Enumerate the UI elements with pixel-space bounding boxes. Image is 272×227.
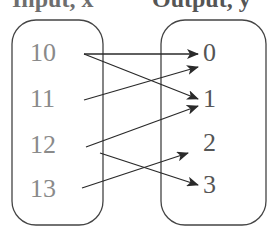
arrow-11-to-0 <box>84 67 198 100</box>
input-value-10: 10 <box>30 40 56 66</box>
input-domain-box <box>12 20 103 225</box>
arrow-12-to-3 <box>100 153 198 185</box>
output-value-1: 1 <box>203 86 216 112</box>
arrow-10-to-1 <box>84 54 198 99</box>
input-value-11: 11 <box>30 86 55 112</box>
output-value-0: 0 <box>203 40 216 66</box>
output-value-3: 3 <box>203 172 216 198</box>
input-value-13: 13 <box>30 176 56 202</box>
arrow-13-to-2 <box>82 153 188 188</box>
output-value-2: 2 <box>203 130 216 156</box>
input-value-12: 12 <box>30 132 56 158</box>
